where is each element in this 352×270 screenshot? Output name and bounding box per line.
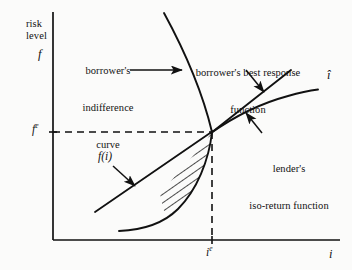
hatched-region [160,132,212,216]
economics-figure: risk level f i fe ie borrower's indiffer… [0,0,352,270]
lender-iso-return-annotation: lender's iso-return function [233,138,345,237]
indifference-curve-annotation-line2: indifference [60,102,156,114]
y-axis-name-line2: level [26,30,47,42]
f-of-i-label: f(i) [98,150,112,164]
best-response-annotation: borrower's best response function [178,42,318,141]
y-axis-variable-label: f [38,47,41,62]
indifference-curve-annotation-line1: borrower's [60,65,156,77]
lender-iso-return-annotation-line2: iso-return function [233,200,345,212]
y-axis-name-line1: risk [26,18,42,30]
x-axis-variable-label: i [329,247,332,262]
lender-iso-return-annotation-line1: lender's [233,163,345,175]
x-tick-superscript: e [209,244,212,253]
y-tick-superscript: e [35,121,38,130]
iso-return-curve-label: î [327,68,330,83]
x-axis-tick-label: ie [206,246,213,260]
y-axis-tick-label: fe [32,123,39,137]
best-response-annotation-line2: function [178,104,318,116]
best-response-annotation-line1: borrower's best response [178,67,318,79]
